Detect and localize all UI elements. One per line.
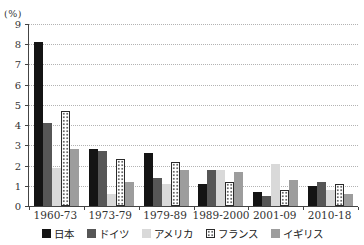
x-category-label: 2001-09 [247, 209, 302, 221]
y-tick-label: 0 [1, 201, 21, 212]
bar-アメリカ-1973-79 [107, 194, 116, 206]
bar-フランス-1960-73 [61, 111, 70, 206]
bar-group-1960-73 [29, 24, 84, 206]
y-tick-label: 3 [1, 140, 21, 151]
x-category-label: 1979-89 [138, 209, 193, 221]
y-axis-tick-labels: 0123456789 [0, 24, 23, 206]
bar-日本-1979-89 [144, 153, 153, 206]
bar-フランス-1979-89 [171, 162, 180, 206]
y-tick-label: 8 [1, 39, 21, 50]
bar-アメリカ-2001-09 [271, 164, 280, 206]
bar-アメリカ-1989-2000 [216, 170, 225, 206]
bar-group-2010-18 [303, 24, 358, 206]
bar-chart: (%) 0123456789 1960-731973-791979-891989… [0, 0, 364, 245]
legend-label: 日本 [54, 226, 74, 241]
legend-swatch [271, 229, 280, 238]
bar-group-1979-89 [139, 24, 194, 206]
bar-アメリカ-1979-89 [162, 184, 171, 206]
x-category-label: 2010-18 [302, 209, 357, 221]
bar-ドイツ-1973-79 [98, 151, 107, 206]
bar-日本-1989-2000 [198, 184, 207, 206]
bar-ドイツ-2010-18 [317, 182, 326, 206]
y-axis-unit-label: (%) [4, 8, 22, 19]
bar-ドイツ-2001-09 [262, 196, 271, 206]
bar-アメリカ-2010-18 [326, 190, 335, 206]
bar-フランス-1989-2000 [225, 182, 234, 206]
legend-item-フランス: フランス [206, 226, 258, 241]
bar-イギリス-2010-18 [344, 194, 353, 206]
y-tick-label: 7 [1, 59, 21, 70]
legend-swatch [87, 229, 96, 238]
bar-日本-1960-73 [34, 42, 43, 206]
x-category-label: 1989-2000 [193, 209, 248, 221]
bar-ドイツ-1989-2000 [207, 170, 216, 206]
bar-group-1973-79 [84, 24, 139, 206]
bar-イギリス-1979-89 [180, 170, 189, 206]
bar-日本-1973-79 [89, 149, 98, 206]
y-tick-label: 6 [1, 80, 21, 91]
x-axis-tick [358, 207, 359, 210]
legend-swatch [142, 229, 151, 238]
y-tick-label: 1 [1, 181, 21, 192]
bar-イギリス-1960-73 [70, 149, 79, 206]
bar-group-1989-2000 [194, 24, 249, 206]
bar-ドイツ-1979-89 [153, 178, 162, 206]
bar-group-2001-09 [248, 24, 303, 206]
x-axis-labels: 1960-731973-791979-891989-20002001-09201… [28, 209, 357, 222]
bar-ドイツ-1960-73 [43, 123, 52, 206]
plot-area [28, 24, 358, 207]
legend-label: フランス [218, 226, 258, 241]
bar-フランス-2010-18 [335, 184, 344, 206]
bar-日本-2010-18 [308, 186, 317, 206]
x-category-label: 1973-79 [83, 209, 138, 221]
legend-swatch [206, 229, 215, 238]
x-category-label: 1960-73 [28, 209, 83, 221]
legend-item-ドイツ: ドイツ [87, 226, 129, 241]
legend-label: ドイツ [99, 226, 129, 241]
y-tick-label: 4 [1, 120, 21, 131]
legend-item-日本: 日本 [42, 226, 74, 241]
legend-item-イギリス: イギリス [271, 226, 323, 241]
bar-イギリス-2001-09 [289, 180, 298, 206]
y-tick-label: 2 [1, 161, 21, 172]
legend-swatch [42, 229, 51, 238]
bar-アメリカ-1960-73 [52, 168, 61, 206]
bar-フランス-2001-09 [280, 190, 289, 206]
legend-label: イギリス [283, 226, 323, 241]
y-tick-label: 9 [1, 19, 21, 30]
y-tick-label: 5 [1, 100, 21, 111]
legend-label: アメリカ [154, 226, 193, 241]
legend-item-アメリカ: アメリカ [142, 226, 193, 241]
bar-フランス-1973-79 [116, 159, 125, 206]
legend: 日本ドイツアメリカフランスイギリス [0, 226, 364, 241]
bar-日本-2001-09 [253, 192, 262, 206]
bar-イギリス-1989-2000 [234, 172, 243, 206]
bar-イギリス-1973-79 [125, 182, 134, 206]
